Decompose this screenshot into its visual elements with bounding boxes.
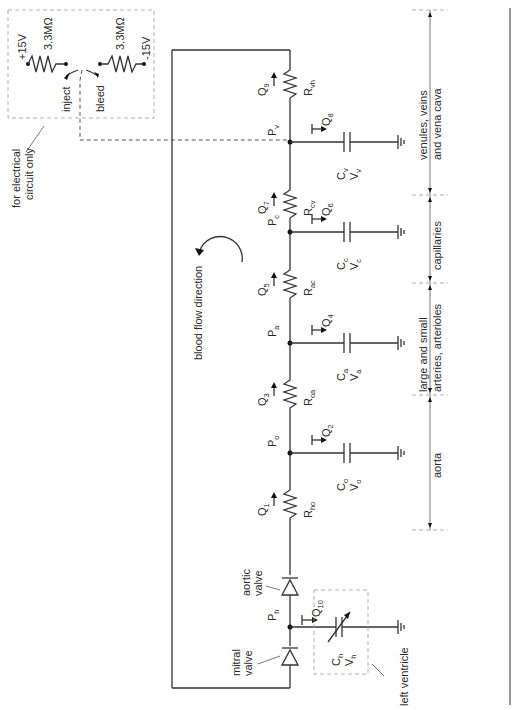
inject-arrow-icon [64,72,70,80]
svg-text:Q8: Q8 [320,113,335,126]
svg-text:Vc: Vc [348,259,363,270]
svg-text:Va: Va [348,369,363,381]
resistor-roa-icon [284,343,296,453]
bleed-label: bleed [94,85,106,112]
region-capillaries: capillaries [431,221,443,270]
svg-text:Q2: Q2 [320,424,335,437]
left-ventricle-label: left ventricle [398,647,410,706]
svg-text:Q3: Q3 [256,393,271,406]
resistor-right-label: 3.3MΩ [114,17,126,50]
resistor-rvh-icon [284,50,296,142]
svg-text:valve: valve [242,650,254,676]
branch-co [288,435,405,463]
blood-flow-arc-icon [200,237,242,262]
svg-text:Q1: Q1 [256,503,271,516]
svg-text:Q10: Q10 [310,600,325,617]
resistor-rcv-icon [284,142,296,232]
region-bracket: venules, veins and vena cava capillaries… [412,10,448,530]
svg-text:Pc: Pc [266,215,281,226]
inject-label: inject [60,86,72,112]
bleed-arrow-icon [94,72,99,78]
svg-text:Pa: Pa [266,325,281,337]
svg-text:Rho: Rho [302,502,317,518]
inset-note-line2: circuit only [23,148,35,200]
svg-text:mitral: mitral [230,649,242,676]
resistor-left-icon [28,56,66,72]
region-arteries-line1: large and small [417,317,429,392]
svg-text:Ph: Ph [266,609,281,621]
svg-text:Rcv: Rcv [302,200,317,216]
resistor-rho-icon [284,453,296,575]
electrical-inset: +15V 3.3MΩ 3.3MΩ -15V inject bleed for e… [8,10,290,208]
svg-text:Q7: Q7 [256,201,271,214]
negative-supply-label: -15V [140,36,152,60]
svg-text:Vv: Vv [348,169,363,180]
resistor-right-icon [100,56,144,72]
inset-note-line1: for electrical [10,149,22,208]
svg-text:Q4: Q4 [320,314,335,327]
aortic-valve-icon [282,580,298,595]
svg-text:Q5: Q5 [256,283,271,296]
branch-ca [288,325,405,353]
region-veins-line1: venules, veins [417,90,429,160]
svg-text:Q6: Q6 [320,203,335,216]
component-labels: Q9 Q7 Q5 Q3 Q1 Rvh Rcv Rac Roa Rho Pv Pc… [230,80,410,706]
svg-text:Rvh: Rvh [302,80,317,96]
svg-text:valve: valve [252,570,264,596]
svg-text:Vh: Vh [343,654,358,666]
region-arteries-line2: arteries, arterioles [431,303,443,392]
region-aorta: aorta [431,452,443,478]
resistor-left-label: 3.3MΩ [42,17,54,50]
blood-flow-arrowhead-icon [195,248,204,256]
svg-text:Vo: Vo [348,479,363,491]
left-ventricle-leader [372,664,384,676]
region-veins-line2: and vena cava [431,88,443,160]
positive-supply-label: +15V [16,33,28,60]
main-loop [172,50,298,688]
branch-cv [288,124,405,152]
svg-text:Pv: Pv [266,125,281,136]
svg-text:Rac: Rac [302,280,317,296]
terminal-dot [142,62,146,66]
blood-flow-label: blood flow direction [192,266,204,360]
resistor-rac-icon [284,232,296,343]
terminal-dot [64,62,68,66]
svg-text:aortic: aortic [240,569,252,596]
svg-text:Q9: Q9 [256,83,271,96]
mitral-valve-icon [282,650,298,665]
svg-text:Po: Po [266,435,281,447]
circulation-circuit-diagram: +15V 3.3MΩ 3.3MΩ -15V inject bleed for e… [0,0,516,710]
branch-cc [288,214,405,242]
inject-bleed-control-line [80,70,290,140]
svg-text:Roa: Roa [302,389,317,406]
